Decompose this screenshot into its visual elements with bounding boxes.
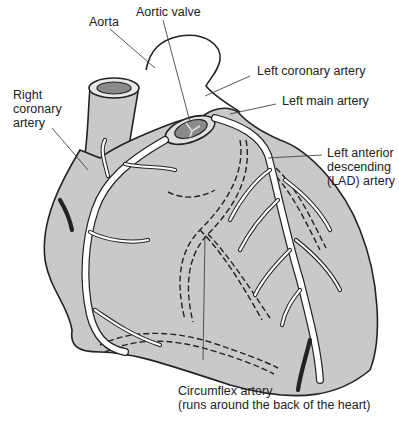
label-aortic-valve: Aortic valve [136, 5, 201, 19]
label-left-main-artery: Left main artery [282, 94, 369, 108]
label-right-coronary-artery: Right coronary artery [13, 88, 62, 130]
label-circumflex-artery: Circumflex artery (runs around the back … [178, 384, 370, 412]
label-lad-artery: Left anterior descending (LAD) artery [327, 146, 395, 188]
aorta-outline [146, 35, 240, 112]
coronary-artery-diagram: Aorta Aortic valve Left coronary artery … [0, 0, 399, 421]
label-aorta: Aorta [89, 15, 119, 29]
label-left-coronary-artery: Left coronary artery [257, 64, 365, 78]
